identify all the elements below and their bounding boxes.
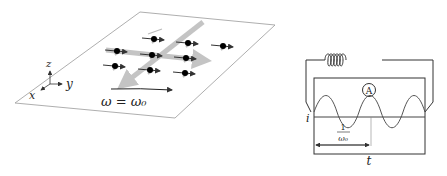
y-axis-label: y xyxy=(65,77,73,91)
ammeter-label: A xyxy=(365,86,373,96)
circuit xyxy=(306,54,433,154)
x-axis-label: x xyxy=(29,89,36,102)
sine-wave xyxy=(314,96,425,128)
z-axis-label: z xyxy=(45,58,52,69)
period-denominator: ω₀ xyxy=(338,134,349,143)
rotation-label: ω = ω₀ xyxy=(101,94,147,109)
spin xyxy=(211,43,233,50)
inductor-coil xyxy=(325,54,346,66)
spin xyxy=(142,29,164,43)
time-label: t xyxy=(367,154,372,168)
spin xyxy=(173,70,195,77)
period-numerator: 1 xyxy=(340,123,345,132)
spin xyxy=(103,63,125,70)
rotation-arrow xyxy=(111,89,172,90)
current-label: i xyxy=(306,112,310,125)
diagram-canvas: ω = ω₀ z y x A i 1 ω₀ t xyxy=(0,0,447,176)
axes-triad: z y x xyxy=(29,58,73,102)
